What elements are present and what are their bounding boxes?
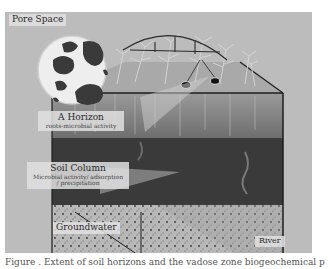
river-label: River <box>255 236 285 247</box>
pore-space-magnifier-icon <box>38 36 108 105</box>
soil-column-illustration <box>5 12 312 253</box>
pore-space-label: Pore Space <box>9 14 66 26</box>
soil-column-label: Soil Column Microbial activity/ adsorpti… <box>27 162 129 189</box>
soil-diagram-panel: Pore Space A Horizon roots-microbial act… <box>5 12 312 253</box>
irrigation-arc-icon <box>123 36 227 60</box>
groundwater-label: Groundwater <box>53 222 120 234</box>
a-horizon-label: A Horizon roots-microbial activity <box>38 111 124 131</box>
figure-caption: Figure . Extent of soil horizons and the… <box>5 257 325 269</box>
